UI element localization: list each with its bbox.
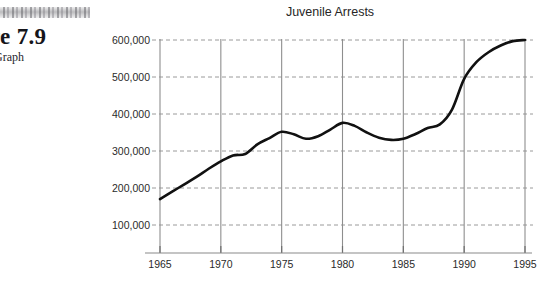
line-chart-plot bbox=[100, 0, 560, 285]
y-axis-tick-label: 500,000 bbox=[92, 71, 150, 83]
scanned-page-margin: re 7.9 Graph bbox=[0, 0, 100, 285]
chart-container: Juvenile Arrests 100,000200,000300,00040… bbox=[100, 0, 560, 285]
y-axis-tick-label: 600,000 bbox=[92, 34, 150, 46]
x-axis-tick-label: 1980 bbox=[319, 258, 367, 270]
x-axis-tick-label: 1990 bbox=[440, 258, 488, 270]
x-axis-tick-label: 1975 bbox=[258, 258, 306, 270]
figure-caption-label: Graph bbox=[0, 50, 24, 65]
scan-artifact-icon bbox=[0, 7, 90, 18]
x-axis-tick-label: 1965 bbox=[136, 258, 184, 270]
y-axis-tick-label: 200,000 bbox=[92, 182, 150, 194]
x-axis-tick-label: 1995 bbox=[501, 258, 549, 270]
axis-tick-marks bbox=[160, 246, 525, 253]
y-axis-tick-label: 300,000 bbox=[92, 145, 150, 157]
y-axis-tick-label: 400,000 bbox=[92, 108, 150, 120]
figure-number-label: re 7.9 bbox=[0, 24, 46, 50]
y-axis-tick-label: 100,000 bbox=[92, 219, 150, 231]
x-axis-tick-label: 1970 bbox=[197, 258, 245, 270]
x-axis-tick-label: 1985 bbox=[379, 258, 427, 270]
